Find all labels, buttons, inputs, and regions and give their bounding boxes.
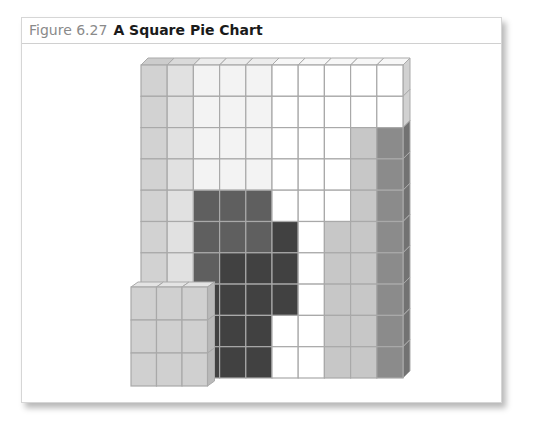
figure-card: Figure 6.27A Square Pie Chart (21, 17, 502, 403)
figure-title: A Square Pie Chart (113, 22, 262, 38)
figure-caption: Figure 6.27A Square Pie Chart (22, 18, 501, 44)
figure-number: Figure 6.27 (29, 22, 107, 38)
